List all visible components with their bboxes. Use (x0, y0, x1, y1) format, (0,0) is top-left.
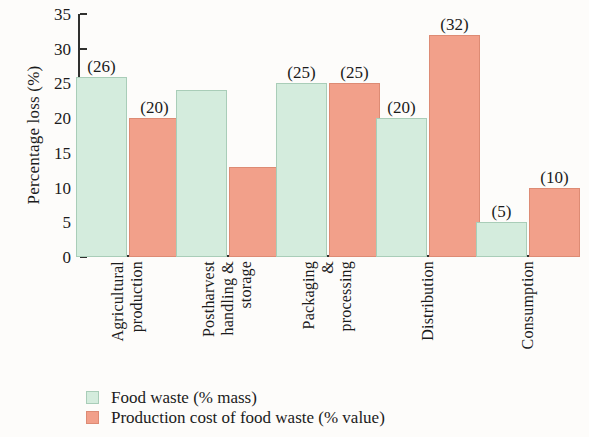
legend-swatch (86, 391, 99, 404)
bars-layer: (26)(20)(25)(25)(20)(32)(5)(10) (78, 14, 578, 257)
y-axis-title: Percentage loss (%) (24, 15, 44, 255)
x-axis-category-lines: Agriculturalproduction (109, 261, 146, 379)
bar-value-label: (20) (140, 99, 168, 116)
bar: (20) (129, 118, 180, 257)
bar-chart: Percentage loss (%) 05101520253035 (26)(… (0, 0, 589, 437)
y-tick-label: 20 (54, 110, 71, 127)
x-axis-category-line: handling & (219, 261, 238, 335)
bar: (26) (76, 77, 127, 258)
x-axis-category-line: production (128, 261, 147, 332)
x-axis-category-lines: Distribution (419, 261, 438, 379)
x-axis-category-lines: Packaging&processing (300, 261, 356, 379)
bar (176, 90, 227, 257)
x-axis-category-label: Agriculturalproduction (78, 261, 178, 379)
x-axis-category-lines: Consumption (519, 261, 538, 379)
legend-label: Food waste (% mass) (111, 389, 257, 406)
y-tick-label: 10 (54, 179, 71, 196)
legend: Food waste (% mass)Production cost of fo… (86, 389, 385, 429)
x-axis-category-lines: Postharvesthandling &storage (200, 261, 256, 379)
y-tick-label: 5 (63, 214, 72, 231)
bar: (10) (529, 188, 580, 257)
bar: (5) (476, 222, 527, 257)
x-axis-category-line: storage (237, 261, 256, 309)
x-axis-category-label: Packaging&processing (278, 261, 378, 379)
bar-value-label: (25) (287, 64, 315, 81)
legend-label: Production cost of food waste (% value) (111, 409, 385, 426)
bar-value-label: (26) (87, 58, 115, 75)
plot-area: 05101520253035 (26)(20)(25)(25)(20)(32)(… (78, 14, 578, 257)
bar-value-label: (32) (440, 16, 468, 33)
bar (229, 167, 280, 257)
bar-value-label: (25) (340, 64, 368, 81)
y-tick-label: 25 (54, 75, 71, 92)
bar: (25) (276, 83, 327, 257)
legend-item: Production cost of food waste (% value) (86, 409, 385, 426)
legend-swatch (86, 411, 99, 424)
bar: (25) (329, 83, 380, 257)
x-axis-category-label: Distribution (378, 261, 478, 379)
y-tick-label: 0 (63, 249, 72, 266)
x-axis-category-line: processing (337, 261, 356, 331)
x-axis-category-line: & (319, 261, 338, 274)
bar: (32) (429, 35, 480, 257)
bar-value-label: (20) (387, 99, 415, 116)
x-axis-category-line: Agricultural (109, 261, 128, 342)
x-axis-category-line: Postharvest (200, 261, 219, 337)
x-axis-category-labels: AgriculturalproductionPostharvesthandlin… (78, 261, 578, 379)
x-axis-category-line: Distribution (419, 261, 438, 341)
x-axis-category-label: Postharvesthandling &storage (178, 261, 278, 379)
y-tick-label: 35 (54, 6, 71, 23)
bar: (20) (376, 118, 427, 257)
legend-item: Food waste (% mass) (86, 389, 385, 406)
bar-value-label: (5) (492, 203, 512, 220)
y-tick-label: 15 (54, 144, 71, 161)
x-axis-category-line: Consumption (519, 261, 538, 349)
y-tick-label: 30 (54, 40, 71, 57)
x-axis-category-line: Packaging (300, 261, 319, 329)
bar-value-label: (10) (540, 169, 568, 186)
x-axis-category-label: Consumption (478, 261, 578, 379)
